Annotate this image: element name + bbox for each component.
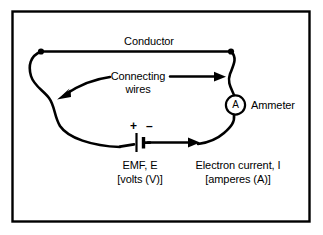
ammeter-symbol-label: A [232,100,239,110]
battery-negative-label: – [146,120,153,132]
right-connecting-wire-upper [229,52,235,96]
connecting-wires-label-line1: Connecting [111,70,166,82]
conductor-label: Conductor [124,35,174,48]
electron-current-label-line2: [amperes (A)] [205,173,270,186]
emf-label-line1: EMF, E [123,159,158,172]
ammeter-label: Ammeter [251,99,295,112]
arrow-to-left-wire-icon-fill [57,90,71,100]
bottom-wire-left [120,144,134,146]
right-connecting-wire-lower [198,115,234,144]
battery-positive-label: + [130,120,137,132]
emf-label-line2: [volts (V)] [117,173,162,186]
connecting-wires-label: Connecting wires [107,70,169,95]
connecting-wires-label-line2: wires [125,83,150,95]
circuit-diagram-figure: Conductor Connecting wires A Ammeter + –… [0,0,323,235]
arrow-to-right-wire-icon [214,72,226,82]
leader-line-left [66,77,110,94]
electron-current-label-line1: Electron current, I [196,159,281,172]
left-connecting-wire [30,52,120,148]
junction-top-left-node [38,48,44,54]
junction-top-right-node [228,48,234,54]
arrow-electron-current-icon [188,138,200,148]
